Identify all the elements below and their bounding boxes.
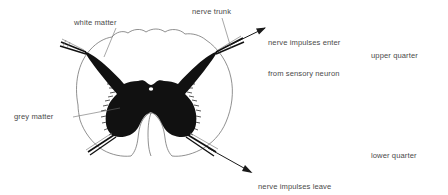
motor-impulse-arrow — [208, 148, 253, 173]
figure-canvas: white matter nerve trunk nerve impulses … — [0, 0, 448, 195]
label-sensory-line2: from sensory neuron — [268, 69, 341, 79]
label-sensory-line1: nerve impulses enter — [268, 38, 341, 48]
label-motor-impulses: nerve impulses leave by motor neuron — [258, 161, 331, 195]
label-nerve-trunk: nerve trunk — [192, 7, 231, 17]
spinal-cord-diagram — [0, 0, 448, 195]
label-motor-line1: nerve impulses leave — [258, 182, 331, 192]
anterior-median-fissure — [148, 113, 151, 156]
dorsal-nerve-root-left — [60, 39, 86, 54]
label-sensory-impulses: nerve impulses enter from sensory neuron — [268, 17, 341, 100]
sensory-impulse-arrow — [230, 28, 266, 46]
label-upper-quarter: upper quarter — [371, 51, 418, 61]
central-canal — [149, 87, 153, 90]
label-lower-quarter: lower quarter — [371, 151, 417, 161]
leader-nerve-trunk — [222, 18, 231, 48]
label-grey-matter: grey matter — [14, 112, 54, 122]
label-white-matter: white matter — [74, 18, 117, 28]
